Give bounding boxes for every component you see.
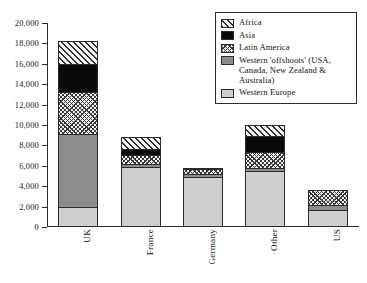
bar-uk <box>58 41 98 227</box>
y-axis-label: 14,000 <box>15 80 39 89</box>
legend-swatch-icon <box>221 44 234 53</box>
legend-swatch-icon <box>221 56 234 65</box>
stacked-bar-chart: 02,0004,0006,0008,00010,00012,00014,0001… <box>0 0 367 283</box>
y-axis-label: 4,000 <box>19 182 39 191</box>
legend-item: Africa <box>221 17 351 28</box>
x-axis: UKFranceGermanyOtherUS <box>47 227 359 283</box>
legend-swatch-icon <box>221 89 234 98</box>
legend-label: Latin America <box>239 42 290 52</box>
legend-item: Latin America <box>221 42 351 53</box>
bar-segment-westeur <box>184 178 222 226</box>
y-axis-label: 10,000 <box>15 121 39 130</box>
legend-swatch-icon <box>221 19 234 28</box>
bar-segment-westeur <box>122 168 160 226</box>
y-axis-label: 8,000 <box>19 141 39 150</box>
bar-segment-westeur <box>309 211 347 226</box>
legend-item: Western 'offshoots' (USA, Canada, New Ze… <box>221 55 351 86</box>
x-axis-label-uk: UK <box>82 229 92 243</box>
bar-segment-westeur <box>246 172 284 226</box>
bar-segment-latin <box>309 191 347 205</box>
y-axis-label: 20,000 <box>15 19 39 28</box>
legend-item: Asia <box>221 30 351 41</box>
x-axis-label-us: US <box>332 229 342 241</box>
y-axis-label: 12,000 <box>15 100 39 109</box>
legend-label: Africa <box>239 17 262 27</box>
bar-segment-offshoots <box>59 135 97 208</box>
legend-swatch-icon <box>221 31 234 40</box>
bar-segment-africa <box>246 126 284 137</box>
legend-item: Western Europe <box>221 87 351 98</box>
y-axis-label: 18,000 <box>15 39 39 48</box>
y-axis-label: 0 <box>35 223 39 232</box>
x-axis-label-germany: Germany <box>207 229 217 265</box>
bar-segment-westeur <box>59 208 97 226</box>
legend-label: Western 'offshoots' (USA, Canada, New Ze… <box>239 55 351 86</box>
bar-segment-latin <box>246 153 284 169</box>
y-axis: 02,0004,0006,0008,00010,00012,00014,0001… <box>0 23 47 227</box>
x-axis-label-france: France <box>145 229 155 255</box>
bar-us <box>308 190 348 227</box>
legend-label: Western Europe <box>239 87 295 97</box>
bar-segment-africa <box>59 42 97 64</box>
y-axis-label: 16,000 <box>15 59 39 68</box>
bar-france <box>121 137 161 227</box>
bar-segment-asia <box>246 137 284 153</box>
legend-label: Asia <box>239 30 255 40</box>
bar-segment-asia <box>59 65 97 93</box>
bar-segment-latin <box>59 93 97 135</box>
bar-other <box>245 125 285 227</box>
bar-segment-latin <box>122 156 160 165</box>
bar-segment-africa <box>122 138 160 150</box>
x-axis-label-other: Other <box>269 229 279 251</box>
y-axis-label: 6,000 <box>19 161 39 170</box>
y-axis-label: 2,000 <box>19 202 39 211</box>
bar-germany <box>183 168 223 227</box>
chart-legend: AfricaAsiaLatin AmericaWestern 'offshoot… <box>215 12 357 104</box>
